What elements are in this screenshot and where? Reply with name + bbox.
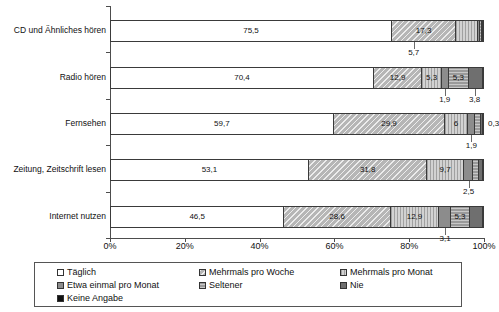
bar-segment: 59,7 xyxy=(110,113,333,135)
legend-swatch-icon xyxy=(57,282,64,289)
segment-value-label: 5,3 xyxy=(454,213,465,221)
bar-segment xyxy=(482,159,484,181)
legend-item[interactable]: Täglich xyxy=(57,266,96,279)
bar-segment xyxy=(482,20,484,42)
bar-segment: 31,8 xyxy=(308,159,427,181)
legend-swatch-icon xyxy=(57,295,64,302)
x-axis-line xyxy=(110,238,485,239)
legend-label: Etwa einmal pro Monat xyxy=(67,281,159,290)
bar-segment xyxy=(469,206,482,228)
bar-segment: 12,9 xyxy=(390,206,438,228)
y-axis-category-label: CD und Ähnliches hören xyxy=(0,25,106,35)
bar-segment xyxy=(482,206,484,228)
bar-segment: 5,3 xyxy=(450,206,470,228)
x-axis-tick-label: 20% xyxy=(176,241,194,251)
legend-row: TäglichMehrmals pro WocheMehrmals pro Mo… xyxy=(35,266,461,279)
bar-segment: 53,1 xyxy=(110,159,308,181)
plot-area: 75,517,35,770,412,95,35,31,93,859,729,96… xyxy=(110,6,484,238)
x-axis-tick-label: 80% xyxy=(400,241,418,251)
bar-segment: 5,3 xyxy=(421,67,441,89)
segment-value-label: 46,5 xyxy=(189,213,205,221)
segment-value-label: 17,3 xyxy=(416,27,432,35)
callout-value-label: 1,9 xyxy=(466,142,477,150)
segment-value-label: 5,3 xyxy=(426,74,437,82)
bar-segment xyxy=(468,67,482,89)
legend-item[interactable]: Keine Angabe xyxy=(57,292,123,305)
segment-value-label: 29,9 xyxy=(381,120,397,128)
y-axis-category-label: Radio hören xyxy=(0,72,106,82)
bar-segment: 46,5 xyxy=(110,206,283,228)
legend-swatch-icon xyxy=(340,282,347,289)
y-axis-category-label: Internet nutzen xyxy=(0,211,106,221)
bar-segment: 28,6 xyxy=(283,206,390,228)
y-axis-category-label: Fernsehen xyxy=(0,118,106,128)
bar-segment: 17,3 xyxy=(391,20,455,42)
y-axis-category-label: Zeitung, Zeitschrift lesen xyxy=(0,164,106,174)
legend-label: Mehrmals pro Woche xyxy=(209,268,294,277)
chart-legend: TäglichMehrmals pro WocheMehrmals pro Mo… xyxy=(34,262,462,307)
outside-value-label: 0,3 xyxy=(488,120,499,128)
segment-value-label: 9,7 xyxy=(439,166,450,174)
bar-segment: 5,3 xyxy=(448,67,468,89)
bar-row: 46,528,612,95,3 xyxy=(110,206,484,228)
segment-value-label: 31,8 xyxy=(360,166,376,174)
x-axis-tick-label: 40% xyxy=(251,241,269,251)
callout-value-label: 2,5 xyxy=(463,188,474,196)
segment-value-label: 28,6 xyxy=(329,213,345,221)
bar-row: 59,729,96 xyxy=(110,113,484,135)
legend-swatch-icon xyxy=(199,269,206,276)
bar-segment: 6 xyxy=(444,113,466,135)
x-axis-tick-label: 60% xyxy=(325,241,343,251)
legend-swatch-icon xyxy=(340,269,347,276)
bar-segment xyxy=(455,20,476,42)
legend-label: Nie xyxy=(350,281,364,290)
stacked-bar: 70,412,95,35,3 xyxy=(110,67,484,89)
legend-row: Etwa einmal pro MonatSeltenerNie xyxy=(35,279,461,292)
bar-segment: 12,9 xyxy=(373,67,421,89)
legend-label: Mehrmals pro Monat xyxy=(350,268,433,277)
bar-segment: 29,9 xyxy=(333,113,445,135)
legend-item[interactable]: Mehrmals pro Woche xyxy=(199,266,294,279)
segment-value-label: 75,5 xyxy=(243,27,259,35)
segment-value-label: 12,9 xyxy=(407,213,423,221)
bar-segment xyxy=(482,113,484,135)
legend-swatch-icon xyxy=(199,282,206,289)
callout-value-label: 5,7 xyxy=(408,49,419,57)
legend-item[interactable]: Nie xyxy=(340,279,364,292)
legend-item[interactable]: Etwa einmal pro Monat xyxy=(57,279,159,292)
callout-value-label: 3,1 xyxy=(440,235,451,243)
stacked-bar: 75,517,3 xyxy=(110,20,484,42)
legend-label: Seltener xyxy=(209,281,243,290)
bar-segment xyxy=(463,159,472,181)
legend-row: Keine Angabe xyxy=(35,292,461,305)
segment-value-label: 5,3 xyxy=(453,74,464,82)
bar-segment xyxy=(438,206,450,228)
bar-segment: 9,7 xyxy=(426,159,462,181)
segment-value-label: 70,4 xyxy=(234,74,250,82)
bar-row: 75,517,3 xyxy=(110,20,484,42)
bar-segment xyxy=(482,67,484,89)
bar-segment xyxy=(441,67,448,89)
stacked-bar: 53,131,89,7 xyxy=(110,159,484,181)
segment-value-label: 53,1 xyxy=(202,166,218,174)
legend-swatch-icon xyxy=(57,269,64,276)
legend-item[interactable]: Mehrmals pro Monat xyxy=(340,266,433,279)
callout-value-label: 1,9 xyxy=(439,96,450,104)
bar-segment: 75,5 xyxy=(110,20,391,42)
callout-value-label: 3,8 xyxy=(469,96,480,104)
legend-item[interactable]: Seltener xyxy=(199,279,243,292)
segment-value-label: 6 xyxy=(454,120,458,128)
segment-value-label: 59,7 xyxy=(214,120,230,128)
legend-label: Täglich xyxy=(67,268,96,277)
bar-row: 53,131,89,7 xyxy=(110,159,484,181)
x-axis-tick-label: 0% xyxy=(103,241,116,251)
bar-segment: 70,4 xyxy=(110,67,373,89)
stacked-bar: 46,528,612,95,3 xyxy=(110,206,484,228)
stacked-bar: 59,729,96 xyxy=(110,113,484,135)
segment-value-label: 12,9 xyxy=(390,74,406,82)
x-axis-tick-label: 100% xyxy=(472,241,495,251)
legend-label: Keine Angabe xyxy=(67,294,123,303)
bar-row: 70,412,95,35,3 xyxy=(110,67,484,89)
bar-segment xyxy=(467,113,474,135)
